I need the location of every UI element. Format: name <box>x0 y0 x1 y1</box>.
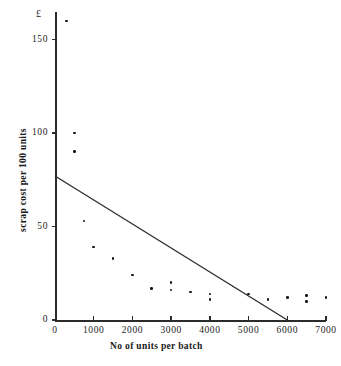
y-axis-line <box>55 12 57 321</box>
x-axis-tick-label: 7000 <box>301 325 341 335</box>
data-point <box>131 274 134 277</box>
x-axis-tick <box>287 316 288 321</box>
trend-line <box>0 0 341 366</box>
x-axis-title: No of units per batch <box>110 341 330 351</box>
x-axis-tick <box>170 316 171 321</box>
data-point <box>305 294 308 297</box>
data-point <box>65 20 68 23</box>
x-axis-line <box>55 320 326 322</box>
y-axis-tick-label: 150 <box>8 34 48 44</box>
currency-unit-label: £ <box>36 8 41 19</box>
data-point <box>247 293 250 296</box>
data-point <box>83 220 86 223</box>
data-point <box>92 246 95 249</box>
data-point <box>305 300 308 303</box>
y-axis-tick <box>52 39 57 40</box>
x-axis-tick <box>209 316 210 321</box>
data-point <box>286 296 289 299</box>
data-point <box>209 298 212 301</box>
y-axis-tick <box>52 132 57 133</box>
data-point <box>150 287 153 290</box>
data-point <box>189 291 192 294</box>
data-point <box>267 298 270 301</box>
scatter-chart-figure: £ 050100150 0100020003000400050006000700… <box>0 0 341 366</box>
data-point <box>112 257 115 260</box>
y-axis-title: scrap cost per 100 units <box>18 95 28 265</box>
data-point <box>170 289 173 292</box>
data-point <box>73 132 76 135</box>
data-point <box>325 296 328 299</box>
x-axis-tick <box>248 316 249 321</box>
y-axis-tick-label: 0 <box>8 314 48 324</box>
y-axis-tick <box>52 226 57 227</box>
x-axis-tick <box>325 316 326 321</box>
data-point <box>170 281 173 284</box>
plot-area <box>0 0 341 366</box>
x-axis-tick <box>132 316 133 321</box>
y-axis-tick-label: 100 <box>8 127 48 137</box>
y-axis-tick <box>52 319 57 320</box>
y-axis-tick-label: 50 <box>8 221 48 231</box>
x-axis-tick <box>93 316 94 321</box>
data-point <box>73 150 76 153</box>
data-point <box>209 293 212 296</box>
